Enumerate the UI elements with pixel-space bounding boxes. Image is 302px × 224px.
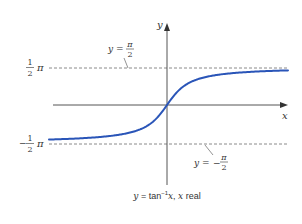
svg-text:1: 1 — [27, 134, 32, 143]
svg-text:π: π — [220, 153, 227, 162]
svg-text:−: − — [19, 138, 27, 148]
x-axis-arrow-icon — [280, 102, 288, 108]
svg-text:y =: y = — [193, 158, 212, 168]
y-axis-label: y — [156, 19, 163, 30]
ytick-lower-label: − 1 2 π — [19, 134, 44, 154]
svg-text:y =: y = — [107, 44, 126, 54]
svg-text:2: 2 — [27, 69, 32, 78]
chart-caption: y = tan−1x, x real — [132, 190, 200, 201]
leader-upper — [124, 58, 128, 68]
svg-text:−: − — [213, 158, 221, 168]
svg-text:π: π — [36, 138, 44, 149]
svg-text:π: π — [126, 40, 133, 49]
svg-text:1: 1 — [27, 58, 32, 67]
svg-text:π: π — [36, 62, 44, 73]
svg-text:2: 2 — [127, 50, 132, 59]
y-axis-arrow-icon — [164, 23, 170, 31]
svg-text:2: 2 — [221, 163, 226, 172]
ytick-upper-label: 1 2 π — [26, 58, 44, 78]
asymptote-upper-annotation: y = π 2 — [107, 40, 134, 59]
x-axis-label: x — [282, 110, 288, 121]
arctan-chart: y x 1 2 π − 1 2 π y = π 2 y = − π 2 y = … — [0, 0, 302, 224]
asymptote-lower-annotation: y = − π 2 — [193, 153, 228, 172]
svg-text:2: 2 — [27, 145, 32, 154]
leader-lower — [205, 145, 213, 155]
